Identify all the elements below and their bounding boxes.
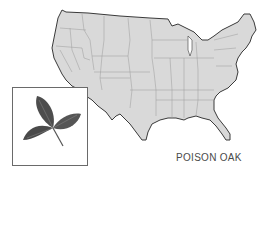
poison-oak-leaf-icon: [13, 88, 87, 165]
map-caption: POISON OAK: [176, 152, 242, 163]
leaf-inset: [12, 87, 88, 166]
